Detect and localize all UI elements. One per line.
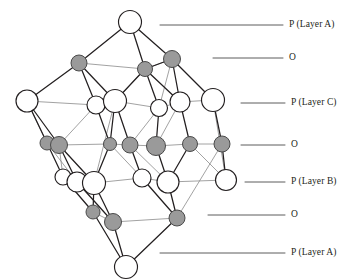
p-atom-P-B-5 [216, 170, 237, 191]
p-atom-P-C-5 [202, 89, 225, 112]
label-layer-a-bot: P (Layer A) [291, 248, 337, 258]
p-atom-P-C-1 [87, 96, 105, 114]
o-atom-O-upper-0 [71, 55, 87, 71]
o-atom-O-middle-4 [147, 137, 166, 156]
bond-line-back [79, 63, 145, 69]
p-atom-P-B-3 [133, 169, 151, 187]
o-atom-O-middle-3 [122, 137, 138, 153]
label-layer-a-top: P (Layer A) [289, 20, 335, 30]
o-atom-O-middle-1 [51, 137, 68, 154]
lattice-diagram [0, 0, 361, 280]
p-atom-P-C-3 [151, 100, 168, 117]
o-atom-O-middle-2 [104, 138, 117, 151]
o-atom-O-middle-5 [183, 137, 198, 152]
label-layer-c: P (Layer C) [291, 98, 337, 108]
label-o-middle: O [291, 140, 298, 150]
atom-circles [16, 11, 237, 279]
p-atom-P-C-2 [104, 90, 127, 113]
p-atom-P-A-bottom-0 [115, 256, 138, 279]
p-atom-P-C-0 [16, 90, 38, 112]
label-o-upper: O [289, 53, 296, 63]
o-atom-O-lower-1 [105, 214, 122, 231]
o-atom-O-middle-6 [214, 136, 230, 152]
label-o-lower: O [291, 210, 298, 220]
o-atom-O-lower-2 [169, 210, 185, 226]
p-atom-P-B-4 [157, 171, 179, 193]
o-atom-O-upper-1 [138, 62, 153, 77]
p-atom-P-B-2 [83, 172, 106, 195]
o-atom-O-lower-0 [86, 205, 100, 219]
o-atom-O-upper-2 [164, 51, 181, 68]
bond-line-back [113, 218, 177, 222]
p-atom-P-C-4 [170, 92, 190, 112]
label-layer-b: P (Layer B) [291, 177, 337, 187]
p-atom-P-A-top-0 [119, 11, 142, 34]
crystal-structure-figure: P (Layer A)OP (Layer C)OP (Layer B)OP (L… [0, 0, 361, 280]
